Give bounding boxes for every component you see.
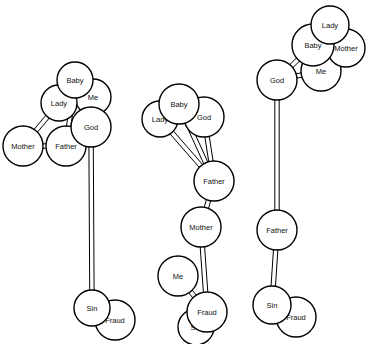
node-label: Lady bbox=[322, 21, 339, 30]
node-label: Sin bbox=[87, 304, 98, 313]
node-label: Mother bbox=[11, 142, 35, 151]
node-label: Fraud bbox=[197, 308, 217, 317]
node-label: Mother bbox=[189, 223, 213, 232]
node-label: Me bbox=[173, 272, 183, 281]
diagram-canvas: MotherFraudFatherSinMeGodLadyBabySinFrau… bbox=[0, 0, 368, 344]
node-label: Father bbox=[266, 226, 288, 235]
graph-node-fraud[interactable]: Fraud bbox=[187, 292, 227, 332]
graph-node-sin[interactable]: Sin bbox=[253, 286, 291, 324]
graph-edge bbox=[271, 244, 279, 292]
graph-node-god[interactable]: God bbox=[71, 107, 111, 147]
node-label: God bbox=[197, 113, 211, 122]
graph-node-me[interactable]: Me bbox=[158, 256, 198, 296]
node-label: Baby bbox=[304, 41, 321, 50]
node-label: Lady bbox=[51, 99, 68, 108]
node-label: Sin bbox=[267, 301, 278, 310]
graph-edge bbox=[275, 94, 279, 216]
node-label: Baby bbox=[66, 76, 83, 85]
graph-edge bbox=[200, 241, 208, 298]
graph-node-mother[interactable]: Mother bbox=[181, 207, 221, 247]
graph-node-god[interactable]: God bbox=[257, 60, 297, 100]
graph-node-father[interactable]: Father bbox=[194, 161, 234, 201]
node-label: God bbox=[270, 76, 284, 85]
nodes-layer: MotherFraudFatherSinMeGodLadyBabySinFrau… bbox=[3, 6, 365, 344]
graph-node-father[interactable]: Father bbox=[257, 210, 297, 250]
graph-node-mother[interactable]: Mother bbox=[3, 126, 43, 166]
graph-node-sin[interactable]: Sin bbox=[74, 290, 110, 326]
node-label: Me bbox=[316, 67, 326, 76]
graph-edge bbox=[89, 141, 94, 296]
node-label: Mother bbox=[334, 44, 358, 53]
graph-node-lady[interactable]: Lady bbox=[311, 6, 349, 44]
graph-node-baby[interactable]: Baby bbox=[159, 84, 199, 124]
node-label: Father bbox=[203, 177, 225, 186]
graph-node-baby[interactable]: Baby bbox=[57, 62, 93, 98]
node-label: Father bbox=[55, 142, 77, 151]
node-label: Me bbox=[88, 93, 98, 102]
node-label: Baby bbox=[170, 100, 187, 109]
node-label: God bbox=[84, 123, 98, 132]
graph-svg: MotherFraudFatherSinMeGodLadyBabySinFrau… bbox=[0, 0, 368, 344]
